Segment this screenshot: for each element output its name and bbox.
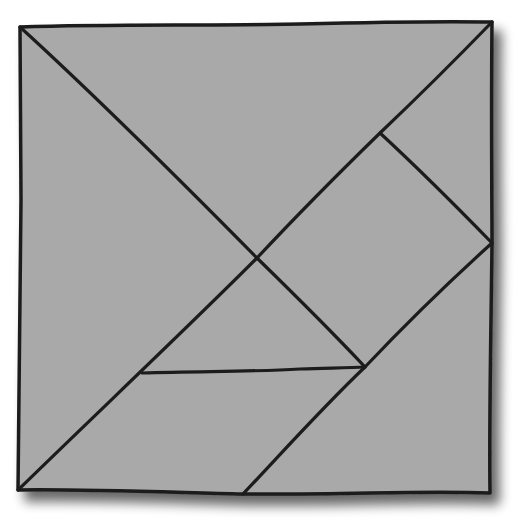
tangram-diagram (0, 0, 518, 522)
tangram-svg (0, 0, 518, 522)
